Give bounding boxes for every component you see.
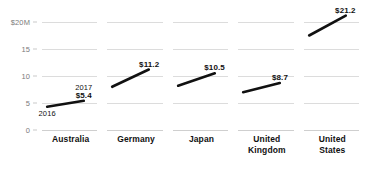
value-label: $11.2 [139, 60, 159, 69]
y-axis-tick-mark [33, 22, 37, 23]
panel-category-label: UnitedStates [300, 134, 365, 156]
series-line [38, 0, 103, 140]
value-label: $5.4 [76, 91, 92, 100]
panel-category-label: UnitedKingdom [234, 134, 299, 156]
panel-category-label-line: Japan [169, 134, 234, 145]
panel-category-label: Australia [38, 134, 103, 145]
chart-panel: $11.2Germany [103, 0, 168, 172]
y-axis-tick-mark [33, 76, 37, 77]
series-line [103, 0, 168, 140]
chart-panel: $8.7UnitedKingdom [234, 0, 299, 172]
panel-category-label: Japan [169, 134, 234, 145]
panel-category-label-line: United [234, 134, 299, 145]
y-axis-tick-label: 0 [26, 126, 30, 135]
panel-category-label-line: United [300, 134, 365, 145]
value-label: $10.5 [204, 63, 225, 72]
series-line [234, 0, 299, 140]
panel-category-label: Germany [103, 134, 168, 145]
value-label: $8.7 [272, 73, 288, 82]
chart-container: $20M151050 2017$5.42016Australia$11.2Ger… [0, 0, 365, 172]
value-label: $21.2 [335, 6, 356, 15]
panel-category-label-line: Australia [38, 134, 103, 145]
chart-panel: $21.2UnitedStates [300, 0, 365, 172]
y-axis-tick-mark [33, 130, 37, 131]
y-axis-tick-label: $20M [11, 18, 30, 27]
panel-category-label-line: Germany [103, 134, 168, 145]
start-year-label: 2016 [39, 109, 56, 118]
y-axis-tick-mark [33, 103, 37, 104]
y-axis-tick-label: 15 [21, 45, 30, 54]
y-axis: $20M151050 [0, 0, 38, 140]
panel-group: 2017$5.42016Australia$11.2Germany$10.5Ja… [38, 0, 365, 172]
chart-panel: $10.5Japan [169, 0, 234, 172]
chart-panel: 2017$5.42016Australia [38, 0, 103, 172]
y-axis-tick-mark [33, 49, 37, 50]
series-line [300, 0, 365, 140]
panel-category-label-line: Kingdom [234, 145, 299, 156]
panel-category-label-line: States [300, 145, 365, 156]
y-axis-tick-label: 10 [21, 72, 30, 81]
y-axis-tick-label: 5 [26, 99, 30, 108]
